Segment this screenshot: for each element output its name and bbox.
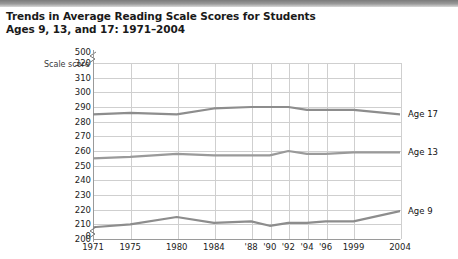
- y-axis-tick-label: 320: [49, 59, 91, 68]
- title-line-2: Ages 9, 13, and 17: 1971–2004: [6, 23, 446, 36]
- x-axis-tick-label: '94: [300, 242, 313, 252]
- y-axis-lower-stub: [93, 234, 94, 242]
- x-axis-tick-label: 1999: [343, 242, 365, 252]
- y-axis-tick-label: 250: [49, 162, 91, 171]
- x-axis-tick-label: '88: [245, 242, 258, 252]
- y-axis-tick-label-0: 0: [49, 232, 91, 241]
- y-axis-tick-column: 3203103002902802702602502402302202102005…: [46, 46, 91, 246]
- x-axis-tick-label: '96: [319, 242, 332, 252]
- x-axis-tick-label: '90: [263, 242, 276, 252]
- series-line-age-13: [93, 151, 400, 158]
- y-axis-tick-label: 290: [49, 103, 91, 112]
- series-lines: [93, 63, 400, 239]
- y-axis-tick-label-500: 500: [49, 48, 91, 57]
- y-axis-tick-label: 240: [49, 176, 91, 185]
- series-label-age-9: Age 9: [408, 206, 433, 216]
- gridline-vertical: [401, 63, 402, 239]
- series-line-age-17: [93, 107, 400, 114]
- x-axis-tick-label: 1975: [119, 242, 141, 252]
- line-chart: Scale score 3203103002902802702602502402…: [0, 46, 458, 246]
- page-title: Trends in Average Reading Scale Scores f…: [6, 10, 446, 35]
- y-axis-tick-label: 230: [49, 191, 91, 200]
- series-label-age-17: Age 17: [408, 109, 438, 119]
- y-axis-tick-label: 210: [49, 220, 91, 229]
- y-axis-tick-label: 310: [49, 74, 91, 83]
- y-axis-tick-label: 260: [49, 147, 91, 156]
- y-axis-tick-label: 270: [49, 132, 91, 141]
- series-label-age-13: Age 13: [408, 147, 438, 157]
- x-axis-line: [93, 239, 400, 240]
- y-axis-tick-label: 280: [49, 118, 91, 127]
- y-axis-tick-label: 300: [49, 88, 91, 97]
- title-line-1: Trends in Average Reading Scale Scores f…: [6, 10, 316, 22]
- x-axis-tick-label: 2004: [389, 242, 411, 252]
- x-axis-tick-label: '92: [282, 242, 295, 252]
- x-axis-tick-label: 1971: [82, 242, 104, 252]
- top-banner: [0, 0, 458, 7]
- series-line-age-9: [93, 211, 400, 227]
- x-axis-tick-label: 1980: [166, 242, 188, 252]
- y-axis-tick-label: 220: [49, 206, 91, 215]
- y-axis-upper-stub: [93, 50, 94, 64]
- x-axis-tick-label: 1984: [203, 242, 225, 252]
